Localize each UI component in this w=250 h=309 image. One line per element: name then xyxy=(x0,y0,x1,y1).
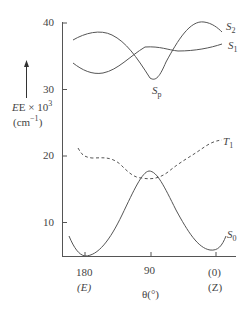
y-tick-label-30: 30 xyxy=(43,83,54,95)
x-tick-sublabel-0: (Z) xyxy=(208,281,222,293)
y-axis-title: EE × 103 xyxy=(12,101,52,113)
label-s1: S1 xyxy=(228,39,238,51)
x-tick-label-180: 180 xyxy=(76,266,93,278)
y-tick-label-40: 40 xyxy=(43,16,54,28)
y-tick-label-10: 10 xyxy=(43,216,54,228)
label-s0-sub: 0 xyxy=(233,234,237,243)
y-axis-unit: (cm−1) xyxy=(13,116,42,128)
x-tick-sublabel-180: (E) xyxy=(77,281,91,293)
label-t1-sub: 1 xyxy=(229,141,233,150)
x-tick-label-90: 90 xyxy=(144,264,155,276)
y-tick-label-20: 20 xyxy=(43,149,54,161)
label-s0: S0 xyxy=(227,228,237,240)
curve-t1 xyxy=(78,140,222,179)
y-axis-unit-close: ) xyxy=(39,116,43,128)
y-axis-title-exponent: 3 xyxy=(48,99,52,108)
curve-s2 xyxy=(73,22,222,79)
label-t1: T1 xyxy=(223,135,233,147)
chart-canvas xyxy=(0,0,250,309)
label-s2-sub: 2 xyxy=(232,26,236,35)
arrow-up-icon xyxy=(24,60,29,67)
label-sp-sub: p xyxy=(158,90,162,99)
curve-s0 xyxy=(69,171,226,256)
x-tick-label-0: (0) xyxy=(208,266,221,278)
curve-s1 xyxy=(73,44,222,73)
y-axis-unit-exponent: −1 xyxy=(30,114,39,123)
label-sp: Sp xyxy=(152,84,162,96)
y-axis-title-text: E × 10 xyxy=(19,101,48,113)
label-s1-sub: 1 xyxy=(234,45,238,54)
y-axis-unit-text: (cm xyxy=(13,116,30,128)
x-axis-title: θ(°) xyxy=(142,288,159,300)
label-s2: S2 xyxy=(226,20,236,32)
